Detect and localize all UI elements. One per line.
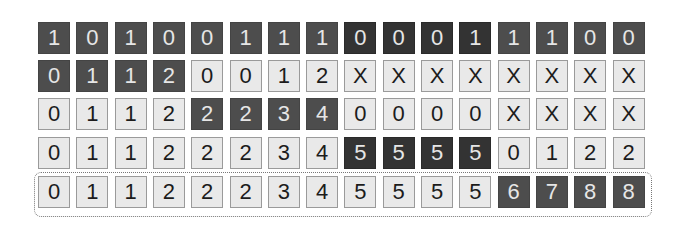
grid-cell: 1 <box>115 60 147 92</box>
grid-cell: 0 <box>344 22 376 54</box>
grid-cell: 1 <box>115 137 147 169</box>
grid-cell: 4 <box>306 98 338 130</box>
grid-cell: 4 <box>306 137 338 169</box>
grid-cell: 2 <box>574 137 606 169</box>
grid-cell: 2 <box>191 137 223 169</box>
grid-cell: 1 <box>306 22 338 54</box>
grid-cell: X <box>613 98 645 130</box>
grid-cell: 5 <box>344 137 376 169</box>
grid-cell: X <box>421 60 453 92</box>
grid-cell: 0 <box>383 98 415 130</box>
grid-cell: 0 <box>498 137 530 169</box>
grid-cell: 0 <box>38 98 70 130</box>
grid-cell: 0 <box>459 98 491 130</box>
grid-cell: 0 <box>613 22 645 54</box>
grid-cell: 1 <box>268 22 300 54</box>
grid-cell: 0 <box>153 22 185 54</box>
grid-cell: 1 <box>268 60 300 92</box>
grid-cell: 2 <box>230 98 262 130</box>
grid-cell: X <box>613 60 645 92</box>
grid-cell: X <box>574 60 606 92</box>
grid-cell: 2 <box>153 137 185 169</box>
grid-cell: 1 <box>459 22 491 54</box>
grid-cell: X <box>344 60 376 92</box>
grid-cell: 2 <box>613 137 645 169</box>
grid-cell: 2 <box>153 98 185 130</box>
grid-cell: 0 <box>76 22 108 54</box>
grid-cell: 1 <box>498 22 530 54</box>
grid-cell: 0 <box>383 22 415 54</box>
result-row-outline <box>34 172 652 217</box>
grid-cell: 2 <box>230 137 262 169</box>
grid-cell: 1 <box>536 22 568 54</box>
grid-cell: 0 <box>38 137 70 169</box>
grid-cell: 0 <box>574 22 606 54</box>
grid-cell: 0 <box>191 60 223 92</box>
grid-cell: 2 <box>191 98 223 130</box>
grid-cell: X <box>459 60 491 92</box>
grid-cell: 1 <box>536 137 568 169</box>
grid-cell: 5 <box>383 137 415 169</box>
grid-cell: 0 <box>421 98 453 130</box>
grid-cell: 0 <box>191 22 223 54</box>
grid-cell: X <box>574 98 606 130</box>
grid-cell: 3 <box>268 137 300 169</box>
grid-cell: 2 <box>153 60 185 92</box>
grid-cell: 1 <box>38 22 70 54</box>
grid-cell: X <box>498 98 530 130</box>
grid-cell: X <box>536 60 568 92</box>
grid-cell: X <box>536 98 568 130</box>
grid-cell: X <box>383 60 415 92</box>
grid-cell: 3 <box>268 98 300 130</box>
grid-cell: 2 <box>306 60 338 92</box>
grid-cell: 0 <box>38 60 70 92</box>
grid-cell: 5 <box>459 137 491 169</box>
grid-cell: 1 <box>115 22 147 54</box>
grid-cell: 1 <box>76 60 108 92</box>
grid-cell: 5 <box>421 137 453 169</box>
grid-cell: 0 <box>344 98 376 130</box>
grid-cell: 0 <box>230 60 262 92</box>
grid-cell: X <box>498 60 530 92</box>
grid-cell: 1 <box>230 22 262 54</box>
grid-cell: 0 <box>421 22 453 54</box>
grid-cell: 1 <box>76 137 108 169</box>
grid-cell: 1 <box>115 98 147 130</box>
grid-cell: 1 <box>76 98 108 130</box>
